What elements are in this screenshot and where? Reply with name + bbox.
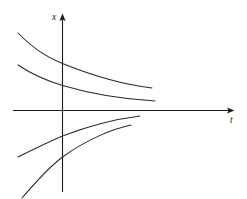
t-axis: t — [13, 107, 235, 125]
curve-lower-outer — [22, 125, 131, 198]
curve-family — [18, 33, 155, 198]
solution-curves-plot: t x — [0, 0, 247, 199]
t-axis-label: t — [230, 115, 233, 125]
x-axis-label: x — [51, 12, 57, 22]
figure-canvas: t x — [0, 0, 247, 199]
curve-upper-outer — [18, 33, 152, 88]
curve-upper-inner — [18, 65, 155, 101]
curve-lower-inner — [18, 116, 140, 157]
